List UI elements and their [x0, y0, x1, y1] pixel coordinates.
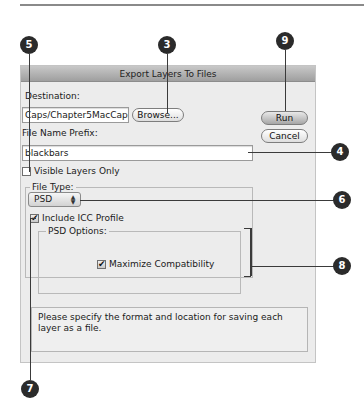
maximize-compatibility-label: Maximize Compatibility: [109, 259, 214, 269]
maximize-compatibility-checkbox[interactable]: ✔: [97, 260, 106, 269]
leader-line-5: [29, 54, 30, 172]
visible-layers-only-label: Visible Layers Only: [34, 166, 120, 176]
bracket-8-top: [244, 228, 251, 229]
callout-4: 4: [331, 143, 349, 161]
psd-options-group-label: PSD Options:: [46, 226, 109, 236]
bracket-8-vertical: [250, 228, 252, 276]
file-type-popup[interactable]: PSD ▲▼: [28, 192, 81, 207]
leader-line-9: [285, 50, 286, 111]
include-icc-profile-label: Include ICC Profile: [42, 213, 124, 223]
leader-line-6: [80, 200, 334, 201]
callout-8: 8: [333, 257, 351, 275]
bracket-7-top: [30, 218, 36, 219]
bracket-8-bottom: [244, 276, 251, 277]
callout-3: 3: [158, 36, 176, 54]
dialog-titlebar[interactable]: Export Layers To Files: [21, 66, 315, 82]
file-name-prefix-field[interactable]: blackbars: [22, 145, 253, 161]
callout-6: 6: [333, 191, 351, 209]
export-layers-dialog: Export Layers To Files Destination: Caps…: [20, 65, 316, 363]
callout-9: 9: [276, 32, 294, 50]
run-button[interactable]: Run: [261, 111, 308, 125]
leader-line-4: [248, 152, 332, 153]
leader-line-3: [167, 54, 168, 113]
info-box: Please specify the format and location f…: [31, 307, 308, 352]
leader-line-8: [251, 266, 334, 267]
callout-7: 7: [21, 380, 39, 398]
file-name-prefix-label: File Name Prefix:: [22, 128, 98, 138]
info-text: Please specify the format and location f…: [38, 312, 283, 333]
file-type-group-label: File Type:: [30, 182, 76, 192]
destination-label: Destination:: [25, 91, 80, 101]
destination-field[interactable]: Caps/Chapter5MacCaps: [22, 107, 129, 123]
browse-button[interactable]: Browse...: [132, 108, 184, 122]
leader-line-7: [30, 218, 31, 380]
dialog-title: Export Layers To Files: [119, 69, 216, 79]
popup-arrows-icon: ▲▼: [68, 194, 78, 205]
callout-5: 5: [20, 36, 38, 54]
file-type-selected: PSD: [34, 194, 52, 204]
cancel-button[interactable]: Cancel: [261, 129, 308, 143]
top-rule: [20, 4, 364, 6]
